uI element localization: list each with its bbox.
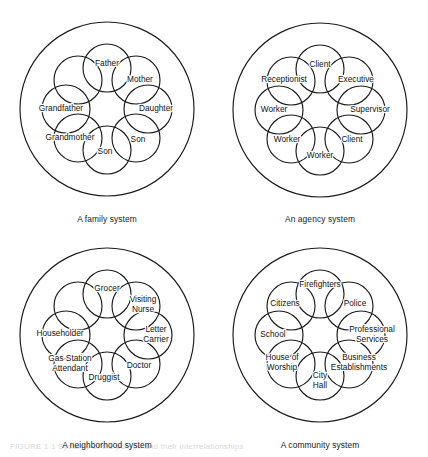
member-label: Executive: [338, 74, 374, 84]
member-label: ProfessionalServices: [349, 324, 395, 343]
systems-figure: FatherMotherDaughterSonSonGrandmotherGra…: [0, 0, 428, 457]
member-label: Citizens: [270, 298, 300, 308]
member-label: CityHall: [313, 370, 328, 389]
member-label: Police: [344, 298, 367, 308]
member-label: Client: [309, 59, 331, 69]
member-label: BusinessEstablishments: [331, 352, 387, 371]
member-label: Worker: [261, 104, 288, 114]
member-label: Mother: [127, 74, 153, 84]
member-label: School: [260, 329, 286, 339]
member-circle: [83, 270, 131, 318]
member-label: Supervisor: [350, 104, 390, 114]
member-label: Firefighters: [299, 279, 341, 289]
panel-neighborhood-system: GrocerVisitingNurseLetterCarrierDoctorDr…: [20, 248, 194, 422]
member-label: Worker: [307, 150, 334, 160]
member-label: Grocer: [94, 283, 120, 293]
member-label: Son: [98, 146, 113, 156]
member-label: Receptionist: [261, 74, 307, 84]
member-label: House ofWorship: [265, 352, 299, 371]
panel-community-system: FirefightersPoliceProfessionalServicesBu…: [233, 248, 407, 422]
panel-family-system: FatherMotherDaughterSonSonGrandmotherGra…: [20, 22, 194, 196]
member-label: VisitingNurse: [130, 294, 157, 313]
panel-caption-agency-system: An agency system: [106, 214, 428, 224]
diagram-canvas: FatherMotherDaughterSonSonGrandmotherGra…: [0, 0, 428, 457]
member-label: Client: [341, 134, 363, 144]
member-circle: [296, 270, 344, 318]
member-label: Doctor: [127, 360, 152, 370]
member-label: Grandmother: [46, 132, 95, 142]
member-label: Householder: [36, 328, 83, 338]
member-label: Father: [95, 58, 119, 68]
member-label: LetterCarrier: [143, 324, 169, 343]
member-label: Gas StationAttendant: [48, 353, 92, 372]
member-label: Daughter: [139, 103, 173, 113]
panel-caption-community-system: A community system: [106, 440, 428, 450]
panel-agency-system: ClientExecutiveSupervisorClientWorkerWor…: [233, 23, 407, 197]
member-label: Son: [131, 134, 146, 144]
member-label: Druggist: [89, 372, 121, 382]
member-label: Grandfather: [39, 103, 84, 113]
member-label: Worker: [274, 134, 301, 144]
